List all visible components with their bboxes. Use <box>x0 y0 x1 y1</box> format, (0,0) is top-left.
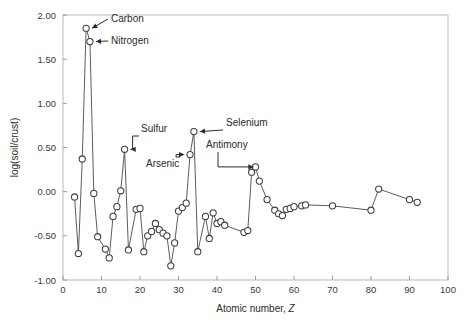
data-point <box>279 212 285 218</box>
data-point <box>79 156 85 162</box>
data-point <box>122 146 128 152</box>
y-tick-label: -1.00 <box>34 275 56 286</box>
data-point <box>83 25 89 31</box>
annotation-label: Antimony <box>206 139 248 150</box>
data-point <box>191 129 197 135</box>
data-point <box>329 203 335 209</box>
data-point <box>118 188 124 194</box>
x-tick-label: 70 <box>327 284 338 295</box>
data-point <box>302 202 308 208</box>
annotation-label: Sulfur <box>141 123 168 134</box>
plot-frame <box>63 15 448 280</box>
annotation-arrowhead <box>179 152 184 157</box>
data-point <box>222 222 228 228</box>
data-point <box>172 240 178 246</box>
data-point <box>195 249 201 255</box>
y-tick-label: 0.50 <box>38 142 57 153</box>
x-tick-label: 20 <box>135 284 146 295</box>
data-point <box>164 233 170 239</box>
data-point <box>183 200 189 206</box>
data-point <box>152 220 158 226</box>
data-point <box>202 213 208 219</box>
annotation-layer: CarbonNitrogenSulfurArsenicSeleniumAntim… <box>92 13 268 170</box>
annotation-arrowhead <box>200 129 205 134</box>
data-point <box>414 199 420 205</box>
data-point <box>210 210 216 216</box>
data-point <box>106 255 112 261</box>
x-tick-label: 30 <box>173 284 184 295</box>
x-tick-label: 100 <box>440 284 456 295</box>
data-point <box>110 213 116 219</box>
chart-figure: 01020304050607080901002.001.501.000.500.… <box>0 0 472 327</box>
annotation-leader <box>218 152 254 167</box>
soil-crust-scatter-plot: 01020304050607080901002.001.501.000.500.… <box>0 0 472 327</box>
data-point <box>406 197 412 203</box>
data-point <box>137 205 143 211</box>
x-axis-title-text: Atomic number, Z <box>216 303 295 314</box>
annotation-label: Arsenic <box>146 158 179 169</box>
data-point <box>114 204 120 210</box>
y-tick-label: 1.50 <box>38 54 57 65</box>
data-point <box>75 250 81 256</box>
annotation-label: Carbon <box>111 13 144 24</box>
x-tick-label: 90 <box>404 284 415 295</box>
data-point <box>376 186 382 192</box>
x-tick-label: 50 <box>250 284 261 295</box>
axes-layer: 01020304050607080901002.001.501.000.500.… <box>9 10 456 315</box>
data-point <box>102 246 108 252</box>
data-point <box>291 204 297 210</box>
annotation-label: Selenium <box>226 117 268 128</box>
data-point <box>264 197 270 203</box>
data-point <box>256 178 262 184</box>
x-tick-label: 10 <box>96 284 107 295</box>
data-point <box>141 249 147 255</box>
y-tick-label: -0.50 <box>34 230 56 241</box>
y-axis-title-text: log(soil/crust) <box>9 118 20 177</box>
data-point <box>95 234 101 240</box>
annotation-arrowhead <box>96 39 101 44</box>
data-point <box>368 207 374 213</box>
x-tick-label: 80 <box>366 284 377 295</box>
y-tick-label: 2.00 <box>38 10 57 21</box>
y-tick-label: 0.00 <box>38 186 57 197</box>
data-point <box>168 263 174 269</box>
x-tick-label: 40 <box>212 284 223 295</box>
data-point <box>91 190 97 196</box>
data-point <box>148 228 154 234</box>
data-point <box>125 247 131 253</box>
annotation-label: Nitrogen <box>111 35 149 46</box>
y-tick-label: 1.00 <box>38 98 57 109</box>
data-point <box>187 151 193 157</box>
data-point <box>206 235 212 241</box>
x-tick-label: 60 <box>289 284 300 295</box>
data-point <box>71 194 77 200</box>
data-point <box>87 38 93 44</box>
data-point <box>245 227 251 233</box>
x-tick-label: 0 <box>60 284 65 295</box>
